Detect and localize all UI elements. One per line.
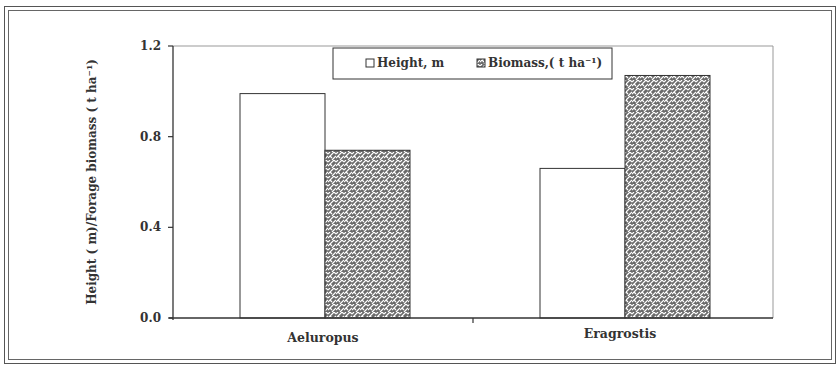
y-tick-label: 1.2 [140, 39, 161, 53]
legend-label-height: Height, m [377, 56, 445, 70]
legend-label-biomass: Biomass,( t ha⁻¹) [488, 56, 602, 70]
bar-eragrostis-height [540, 168, 625, 318]
x-category-label: Aeluropus [286, 330, 358, 345]
x-category-label: Eragrostis [584, 326, 656, 341]
bars-group [240, 75, 710, 318]
bar-chart: 0.00.40.81.2 AeluropusEragrostis Height … [0, 0, 840, 371]
bar-aeluropus-height [240, 94, 325, 318]
y-tick-label: 0.8 [140, 130, 161, 144]
y-tick-label: 0.0 [140, 311, 161, 325]
bar-aeluropus-biomass [325, 150, 410, 318]
y-ticks-group: 0.00.40.81.2 [140, 39, 173, 325]
x-labels-group: AeluropusEragrostis [286, 326, 656, 345]
legend-swatch-biomass [477, 59, 485, 67]
legend: Height, m Biomass,( t ha⁻¹) [333, 48, 612, 79]
legend-swatch-height [366, 59, 374, 67]
bar-eragrostis-biomass [625, 75, 710, 318]
y-axis-title: Height ( m)/Forage biomass ( t ha⁻¹) [85, 59, 99, 305]
y-tick-label: 0.4 [140, 220, 161, 234]
